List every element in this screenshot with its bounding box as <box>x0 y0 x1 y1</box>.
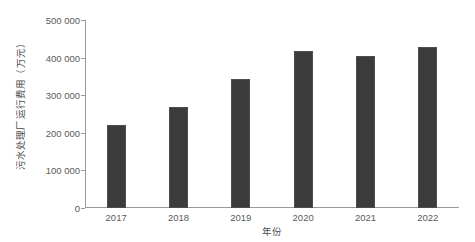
y-axis-tick-labels: 0100 000200 000300 000400 000500 000 <box>22 0 80 242</box>
x-axis-tick-label: 2018 <box>149 212 209 223</box>
x-axis-tick-label: 2019 <box>211 212 271 223</box>
x-axis-tick-label: 2017 <box>86 212 146 223</box>
bar-chart-figure: 污水处理厂运行费用（万元） 0100 000200 000300 000400 … <box>0 0 475 242</box>
y-axis-tick-label: 300 000 <box>22 90 80 101</box>
bar <box>169 107 188 208</box>
y-axis-tick-label: 500 000 <box>22 15 80 26</box>
bar-series <box>85 20 459 208</box>
y-axis-tick-label: 200 000 <box>22 127 80 138</box>
y-axis-tick-label: 0 <box>22 203 80 214</box>
bar <box>294 51 313 208</box>
bar <box>231 79 250 208</box>
y-axis-tick-label: 400 000 <box>22 52 80 63</box>
x-axis-tick-label: 2021 <box>336 212 396 223</box>
x-axis-title: 年份 <box>85 224 459 238</box>
y-axis-tick-mark <box>81 208 85 209</box>
x-axis-tick-label: 2020 <box>273 212 333 223</box>
bar <box>356 56 375 208</box>
x-axis-tick-label: 2022 <box>398 212 458 223</box>
plot-area <box>85 20 459 208</box>
y-axis-tick-label: 100 000 <box>22 165 80 176</box>
bar <box>418 47 437 208</box>
bar <box>107 125 126 208</box>
